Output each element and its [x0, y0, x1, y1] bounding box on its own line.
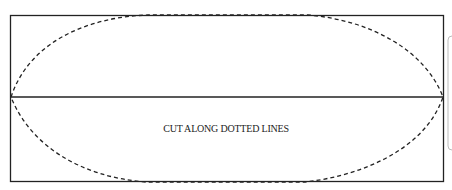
cut-template	[0, 0, 452, 190]
cut-instruction-label: CUT ALONG DOTTED LINES	[0, 123, 452, 134]
dotted-ellipse-cut-line	[11, 15, 443, 182]
outer-rectangle	[11, 16, 444, 182]
